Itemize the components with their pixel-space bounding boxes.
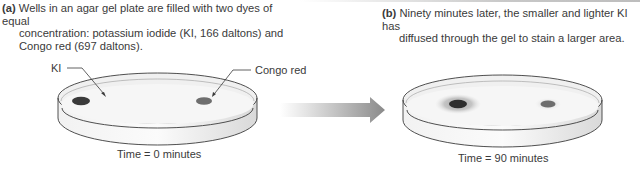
label-ki: KI <box>51 62 61 74</box>
time-label-90: Time = 90 minutes <box>458 152 548 164</box>
petri-dish-time-90 <box>403 75 602 147</box>
label-congo-red: Congo red <box>255 64 306 76</box>
ki-well-time-90 <box>449 100 467 108</box>
right-arrow-icon <box>280 97 385 123</box>
ki-well-time-0 <box>72 97 90 105</box>
congo-well-time-0 <box>196 97 212 105</box>
time-label-0: Time = 0 minutes <box>117 148 201 160</box>
diffusion-figure <box>0 0 640 171</box>
congo-well-time-90 <box>541 100 556 107</box>
petri-dish-time-0 <box>58 68 257 145</box>
